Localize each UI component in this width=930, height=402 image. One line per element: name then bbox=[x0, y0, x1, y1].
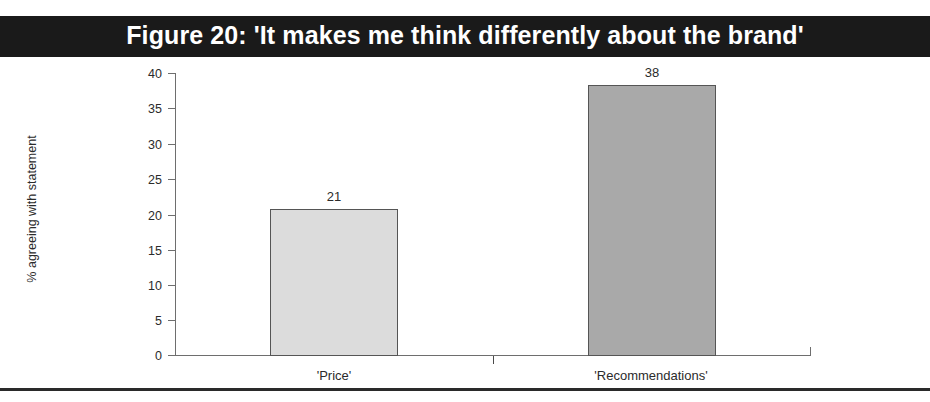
x-category-label-recommendations: 'Recommendations' bbox=[561, 369, 741, 382]
y-tick-mark bbox=[168, 73, 175, 74]
y-tick-mark bbox=[168, 215, 175, 216]
y-axis-line bbox=[175, 73, 176, 355]
y-tick-mark bbox=[168, 179, 175, 180]
y-tick-label: 25 bbox=[130, 174, 162, 187]
y-tick-label: 40 bbox=[130, 68, 162, 81]
y-tick-label: 15 bbox=[130, 245, 162, 258]
bar-value-label-price: 21 bbox=[294, 190, 374, 203]
figure-container: Figure 20: 'It makes me think differentl… bbox=[0, 0, 930, 402]
y-tick-label: 20 bbox=[130, 210, 162, 223]
bar-chart: % agreeing with statement 40 35 30 25 20… bbox=[0, 57, 930, 388]
y-axis-title: % agreeing with statement bbox=[25, 114, 39, 304]
x-tick-mark bbox=[493, 356, 494, 364]
bar-recommendations[interactable] bbox=[588, 85, 716, 356]
y-tick-mark bbox=[168, 144, 175, 145]
y-tick-label: 0 bbox=[130, 350, 162, 363]
bar-value-label-recommendations: 38 bbox=[612, 66, 692, 79]
bottom-divider bbox=[0, 388, 930, 391]
y-tick-label: 10 bbox=[130, 280, 162, 293]
bar-price[interactable] bbox=[270, 209, 398, 356]
y-tick-label: 5 bbox=[130, 315, 162, 328]
y-tick-label: 30 bbox=[130, 139, 162, 152]
page-title: Figure 20: 'It makes me think differentl… bbox=[126, 23, 804, 50]
y-tick-mark bbox=[168, 250, 175, 251]
x-category-label-price: 'Price' bbox=[274, 369, 394, 382]
y-tick-mark bbox=[168, 355, 175, 356]
y-tick-mark bbox=[168, 320, 175, 321]
y-tick-mark bbox=[168, 285, 175, 286]
figure-title-bar: Figure 20: 'It makes me think differentl… bbox=[0, 16, 930, 57]
x-axis-end-tick bbox=[810, 347, 811, 356]
y-tick-label: 35 bbox=[130, 103, 162, 116]
y-tick-mark bbox=[168, 108, 175, 109]
